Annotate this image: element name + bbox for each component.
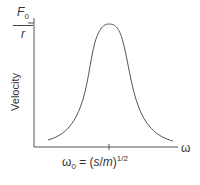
- fraction-bar: [13, 25, 33, 26]
- omega-symbol: ω: [62, 155, 71, 169]
- y-max-numerator-sub: 0: [24, 12, 28, 21]
- y-max-denominator: r: [12, 28, 34, 41]
- exponent: 1/2: [117, 154, 128, 163]
- omega0-label: ω0 = (s/m)1/2: [62, 154, 128, 171]
- m-var: m: [103, 155, 113, 169]
- x-axis-label: ω: [181, 141, 190, 155]
- y-max-label: F0 r: [12, 6, 34, 41]
- y-axis-label: Velocity: [9, 73, 21, 111]
- velocity-curve: [48, 24, 173, 141]
- equals-paren: = (: [76, 155, 94, 169]
